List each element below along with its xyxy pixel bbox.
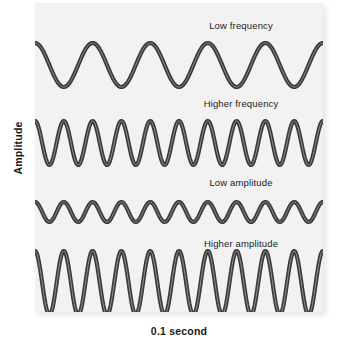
- waveforms-svg: [35, 3, 323, 312]
- waveform-0-highlight: [35, 43, 323, 87]
- waveform-2-highlight: [35, 202, 323, 222]
- wave-label-low-amplitude: Low amplitude: [151, 177, 323, 188]
- wave-label-low-frequency: Low frequency: [151, 20, 323, 31]
- waveform-3-outline: [35, 251, 323, 312]
- waveform-2-outline: [35, 202, 323, 222]
- waveform-1-highlight: [35, 121, 323, 165]
- wave-label-higher-frequency: Higher frequency: [151, 98, 323, 109]
- y-axis-label: Amplitude: [12, 103, 24, 193]
- waveform-1-outline: [35, 121, 323, 165]
- x-axis-label: 0.1 second: [35, 325, 323, 337]
- waveform-3-highlight: [35, 251, 323, 312]
- plot-panel: Low frequency Higher frequency Low ampli…: [35, 3, 323, 312]
- wave-label-higher-amplitude: Higher amplitude: [151, 238, 323, 249]
- sound-wave-figure: Amplitude Low frequency Higher frequency…: [0, 0, 348, 339]
